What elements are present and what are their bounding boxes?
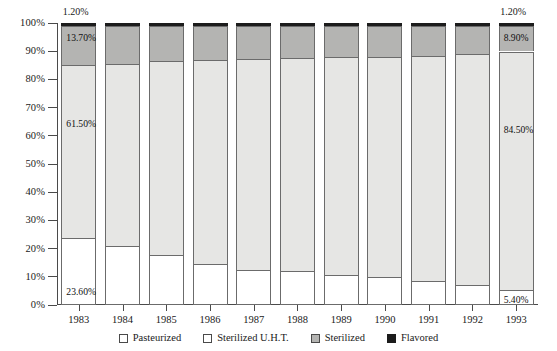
x-axis-tick-label: 1983 (57, 313, 101, 326)
x-axis-tick-mark (429, 305, 430, 311)
segment-value-label: 84.50% (504, 124, 534, 135)
legend-swatch-uht (203, 334, 212, 343)
bar-segment[interactable]: 23.60% (61, 238, 96, 305)
bar-segment[interactable] (367, 26, 402, 56)
bar-column[interactable] (280, 23, 315, 305)
x-axis-tick-label: 1988 (276, 313, 320, 326)
bar-segment[interactable] (193, 264, 228, 305)
bar-segment[interactable] (367, 57, 402, 278)
y-axis-tick: 30% (0, 214, 57, 226)
x-axis-tick-mark (79, 305, 80, 311)
bar-segment[interactable] (280, 58, 315, 271)
segment-value-label: 5.40% (504, 294, 529, 305)
bar-segment[interactable] (499, 23, 534, 26)
legend-item-label: Sterilized U.H.T. (217, 332, 289, 344)
bar-segment[interactable] (280, 26, 315, 58)
bar-segment[interactable] (367, 277, 402, 305)
y-axis-tick-label: 60% (25, 130, 45, 142)
y-axis-tick-label: 90% (25, 45, 45, 57)
y-axis-tick-label: 20% (25, 243, 45, 255)
bar-segment[interactable]: 61.50% (61, 65, 96, 238)
bar-segment[interactable] (149, 255, 184, 305)
above-bar-value-label: 1.20% (500, 6, 526, 18)
legend-item-label: Sterilized (325, 332, 365, 344)
y-axis-tick-mark (48, 107, 57, 108)
y-axis-tick-label: 100% (20, 17, 45, 29)
bar-segment[interactable] (324, 57, 359, 275)
bar-segment[interactable] (367, 23, 402, 26)
bar-column[interactable] (105, 23, 140, 305)
bar-segment[interactable] (236, 59, 271, 270)
bar-segment[interactable] (105, 246, 140, 305)
bar-segment[interactable] (149, 23, 184, 26)
bar-column[interactable] (367, 23, 402, 305)
bar-segment[interactable]: 13.70% (61, 26, 96, 65)
bar-segment[interactable]: 8.90% (499, 26, 534, 51)
x-axis-tick: 1990 (363, 305, 407, 331)
bar-column[interactable] (411, 23, 446, 305)
legend-item[interactable]: Flavored (387, 332, 438, 344)
bar-column[interactable] (236, 23, 271, 305)
x-axis-tick-mark (210, 305, 211, 311)
y-axis-tick-mark (48, 79, 57, 80)
bar-segment[interactable] (236, 23, 271, 26)
y-axis-tick-mark (48, 51, 57, 52)
bar-column[interactable]: 5.40%84.50%8.90% (499, 23, 534, 305)
bar-segment[interactable] (105, 23, 140, 26)
legend-item[interactable]: Pasteurized (119, 332, 181, 344)
bar-segment[interactable] (324, 26, 359, 57)
bar-segment[interactable]: 84.50% (499, 52, 534, 290)
bar-segment[interactable]: 5.40% (499, 290, 534, 305)
x-axis-tick: 1988 (276, 305, 320, 331)
legend-item[interactable]: Sterilized (311, 332, 365, 344)
legend-swatch-pasteurized (119, 334, 128, 343)
x-axis-tick-mark (385, 305, 386, 311)
bar-segment[interactable] (324, 275, 359, 305)
y-axis-tick-label: 10% (25, 271, 45, 283)
y-axis-tick-label: 40% (25, 186, 45, 198)
bar-segment[interactable] (411, 281, 446, 305)
bar-segment[interactable] (105, 26, 140, 63)
bar-segment[interactable] (455, 23, 490, 26)
bar-segment[interactable] (193, 60, 228, 264)
legend-item-label: Pasteurized (133, 332, 181, 344)
bar-segment[interactable] (105, 64, 140, 247)
bar-segment[interactable] (324, 23, 359, 26)
bar-segment[interactable] (411, 23, 446, 26)
bar-column[interactable]: 23.60%61.50%13.70% (61, 23, 96, 305)
y-axis-tick: 70% (0, 102, 57, 114)
y-axis-tick-mark (48, 248, 57, 249)
bar-segment[interactable] (149, 61, 184, 255)
bar-segment[interactable] (455, 26, 490, 53)
bar-segment[interactable] (61, 23, 96, 26)
bar-segment[interactable] (411, 56, 446, 281)
bar-column[interactable] (455, 23, 490, 305)
bar-segment[interactable] (411, 26, 446, 56)
x-axis-tick-mark (516, 305, 517, 311)
x-axis-tick-label: 1984 (101, 313, 145, 326)
legend-item[interactable]: Sterilized U.H.T. (203, 332, 289, 344)
bar-segment[interactable] (193, 23, 228, 26)
bar-segment[interactable] (193, 26, 228, 59)
bar-segment[interactable] (149, 26, 184, 60)
y-axis-tick-label: 50% (25, 158, 45, 170)
bar-segment[interactable] (455, 54, 490, 286)
bar-column[interactable] (324, 23, 359, 305)
y-axis-tick-mark (48, 23, 57, 24)
x-axis-tick: 1991 (407, 305, 451, 331)
bar-segment[interactable] (236, 270, 271, 305)
y-axis-tick: 20% (0, 243, 57, 255)
x-axis-tick: 1992 (451, 305, 495, 331)
y-axis-tick-mark (48, 220, 57, 221)
bar-segment[interactable] (236, 26, 271, 58)
x-axis-tick: 1984 (101, 305, 145, 331)
x-axis-tick-label: 1985 (144, 313, 188, 326)
x-axis-tick-label: 1986 (188, 313, 232, 326)
plot-area: 23.60%61.50%13.70%5.40%84.50%8.90% (57, 23, 538, 305)
bar-column[interactable] (193, 23, 228, 305)
bar-segment[interactable] (280, 271, 315, 305)
bar-segment[interactable] (455, 285, 490, 305)
x-axis-tick: 1983 (57, 305, 101, 331)
bar-column[interactable] (149, 23, 184, 305)
bar-segment[interactable] (280, 23, 315, 26)
